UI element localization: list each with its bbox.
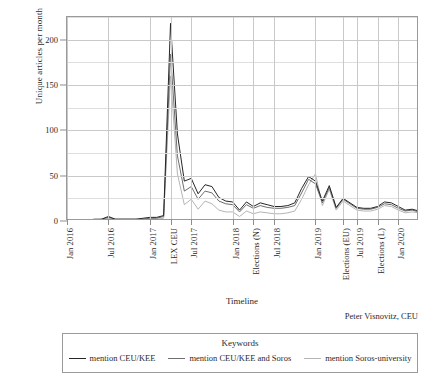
x-axis-tick-label: Jul 2017 xyxy=(189,228,199,258)
x-axis-tick-mark xyxy=(398,219,399,225)
gridline-vertical xyxy=(233,17,234,219)
gridline-vertical xyxy=(274,17,275,219)
x-axis-tick-mark xyxy=(67,219,68,225)
gridline-vertical xyxy=(378,17,379,219)
series-lines xyxy=(67,17,417,219)
legend-swatch xyxy=(304,358,321,359)
x-axis-tick-label: Elections (EU) xyxy=(341,228,351,280)
legend-swatch xyxy=(168,358,185,359)
gridline-vertical xyxy=(357,17,358,219)
legend-title: Keywords xyxy=(63,338,417,348)
gridline-vertical xyxy=(67,17,68,219)
gridline-vertical xyxy=(343,17,344,219)
x-axis-tick-label: Jul 2019 xyxy=(355,228,365,258)
plot-inner xyxy=(67,17,417,219)
gridline-horizontal xyxy=(67,130,417,131)
y-axis-tick-label: 100 xyxy=(0,125,67,135)
x-axis-tick-label: Elections (L) xyxy=(376,228,386,274)
x-axis-tick-label: Jan 2016 xyxy=(65,228,75,259)
y-axis-tick-label: 50 xyxy=(0,171,67,181)
x-axis-tick-label: Jan 2020 xyxy=(396,228,406,259)
x-axis-tick-label: Jan 2017 xyxy=(148,228,158,259)
gridline-horizontal xyxy=(67,17,417,18)
plot-area: 050100150200 Jan 2016Jul 2016Jan 2017LEX… xyxy=(66,16,418,220)
x-axis-title: Timeline xyxy=(66,296,418,306)
y-axis-tick-label: 200 xyxy=(0,35,67,45)
gridline-horizontal xyxy=(67,62,417,63)
legend-item[interactable]: mention CEU/KEE and Soros xyxy=(168,353,291,363)
legend-label: mention CEU/KEE and Soros xyxy=(189,353,291,363)
gridline-vertical xyxy=(398,17,399,219)
gridline-vertical xyxy=(315,17,316,219)
x-axis-tick-label: LEX CEU xyxy=(169,228,179,264)
x-axis-tick-mark xyxy=(191,219,192,225)
legend-item[interactable]: mention Soros-university xyxy=(304,353,411,363)
legend-item[interactable]: mention CEU/KEE xyxy=(69,353,156,363)
x-axis-tick-mark xyxy=(274,219,275,225)
x-axis-tick-mark xyxy=(150,219,151,225)
gridline-horizontal xyxy=(67,153,417,154)
gridline-vertical xyxy=(171,17,172,219)
legend-box: Keywords mention CEU/KEEmention CEU/KEE … xyxy=(62,333,418,373)
x-axis-tick-label: Elections (N) xyxy=(251,228,261,275)
gridline-horizontal xyxy=(67,85,417,86)
gridline-vertical xyxy=(191,17,192,219)
gridline-horizontal xyxy=(67,108,417,109)
chart-figure: Unique articles per month 050100150200 J… xyxy=(0,0,436,379)
x-axis-tick-mark xyxy=(315,219,316,225)
gridline-horizontal xyxy=(67,198,417,199)
series-line xyxy=(67,54,417,219)
gridline-horizontal xyxy=(67,176,417,177)
series-line xyxy=(67,23,417,219)
x-axis-tick-label: Jul 2016 xyxy=(106,228,116,258)
y-axis-tick-mark xyxy=(60,175,67,176)
x-axis-tick-mark xyxy=(343,219,344,225)
y-axis-tick-mark xyxy=(60,221,67,222)
credit-attribution: Peter Visnovitz, CEU xyxy=(345,311,418,321)
x-axis-tick-label: Jul 2018 xyxy=(272,228,282,258)
x-axis-tick-mark xyxy=(253,219,254,225)
x-axis-tick-mark xyxy=(171,219,172,225)
y-axis-tick-label: 0 xyxy=(0,216,67,226)
x-axis-tick-mark xyxy=(233,219,234,225)
legend-swatch xyxy=(69,358,86,359)
legend-label: mention Soros-university xyxy=(325,353,411,363)
y-axis-tick-mark xyxy=(60,39,67,40)
gridline-vertical xyxy=(253,17,254,219)
y-axis-tick-mark xyxy=(60,85,67,86)
gridline-vertical xyxy=(150,17,151,219)
x-axis-tick-mark xyxy=(357,219,358,225)
legend-items: mention CEU/KEEmention CEU/KEE and Soros… xyxy=(63,353,417,363)
x-axis-tick-label: Jan 2018 xyxy=(231,228,241,259)
y-axis-tick-label: 150 xyxy=(0,80,67,90)
gridline-horizontal xyxy=(67,40,417,41)
y-axis-tick-mark xyxy=(60,130,67,131)
gridline-vertical xyxy=(108,17,109,219)
x-axis-tick-label: Jan 2019 xyxy=(313,228,323,259)
x-axis-tick-mark xyxy=(108,219,109,225)
legend-label: mention CEU/KEE xyxy=(90,353,156,363)
x-axis-tick-mark xyxy=(378,219,379,225)
